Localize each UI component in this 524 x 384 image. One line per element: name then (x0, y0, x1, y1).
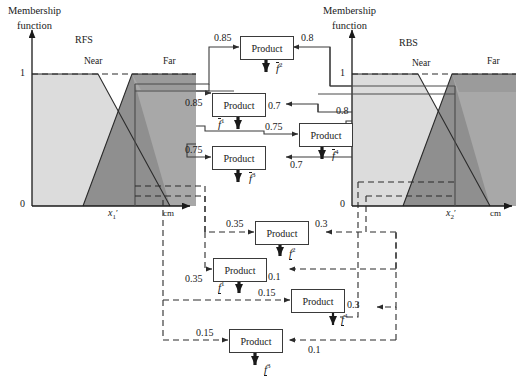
product-box-lower-3[interactable]: Product (291, 289, 345, 313)
rfs-axis-title-line1: Membership (8, 6, 61, 17)
output-u4-superscript: 3 (252, 171, 256, 179)
product-box-lower-2-label: Product (224, 265, 255, 276)
rfs-alpha-far (132, 74, 196, 90)
weight-l3-right: 0.3 (347, 300, 360, 310)
weight-u3-left: 0.75 (265, 122, 283, 132)
rbs-tick-one: 1 (340, 68, 345, 78)
weight-u2-right: 0.7 (268, 101, 281, 111)
output-u1: f2 (276, 62, 283, 75)
weight-u4-left: 0.75 (185, 145, 203, 155)
weight-u2-left: 0.85 (185, 98, 203, 108)
product-box-lower-4-label: Product (240, 336, 271, 347)
weight-l2-left: 0.35 (185, 274, 203, 284)
output-l4: f3 (264, 363, 271, 376)
rbs-x-input-label: x2′ (446, 208, 456, 221)
rbs-axis-title-line1: Membership (323, 6, 376, 17)
weight-l3-left: 0.15 (258, 288, 276, 298)
product-box-upper-3-label: Product (310, 130, 341, 141)
output-u2: f1 (218, 118, 225, 131)
output-l1-superscript: 2 (292, 246, 296, 254)
rbs-x-prime: ′ (454, 208, 456, 218)
output-l3: f4 (341, 313, 348, 326)
rbs-tick-zero: 0 (340, 199, 345, 209)
product-box-upper-4-label: Product (223, 153, 254, 164)
rfs-tick-zero: 0 (20, 199, 25, 209)
product-box-upper-1-label: Product (251, 43, 282, 54)
rfs-set-label-far: Far (163, 57, 176, 67)
rfs-x-input-label: x1′ (108, 208, 118, 221)
product-box-upper-3[interactable]: Product (299, 123, 353, 147)
weight-u1-right: 0.8 (301, 33, 314, 43)
wire-035-to-l2 (205, 232, 212, 269)
output-l4-superscript: 3 (267, 362, 271, 370)
wire-085-to-u1 (196, 47, 239, 84)
product-box-lower-2[interactable]: Product (213, 258, 267, 282)
output-u2-superscript: 1 (221, 117, 225, 125)
product-box-upper-2-label: Product (223, 100, 254, 111)
output-l2-superscript: 1 (221, 280, 225, 288)
weight-u4-right: 0.7 (290, 160, 303, 170)
output-u3: f4 (332, 149, 339, 162)
rfs-axis-title-line2: function (17, 21, 52, 32)
weight-l1-right: 0.3 (315, 219, 328, 229)
weight-l2-right: 0.1 (268, 272, 281, 282)
output-u3-superscript: 4 (335, 148, 339, 156)
product-box-upper-2[interactable]: Product (212, 93, 266, 117)
wire-075-to-u3 (196, 126, 298, 134)
weight-l1-left: 0.35 (226, 219, 244, 229)
rbs-axis-title-line2: function (332, 21, 367, 32)
rfs-set-label-near: Near (84, 57, 102, 67)
rfs-unit-label: cm (163, 209, 174, 218)
weight-l4-left: 0.15 (196, 328, 214, 338)
wire-085-to-u2 (206, 84, 211, 93)
product-box-lower-3-label: Product (302, 296, 333, 307)
output-l2: f1 (218, 281, 225, 294)
weight-l4-right: 0.1 (308, 345, 321, 355)
rfs-tick-one: 1 (20, 68, 25, 78)
rfs-x-prime: ′ (116, 208, 118, 218)
rbs-set-label-near: Near (412, 59, 430, 69)
rbs-alpha-far (452, 74, 516, 92)
output-l3-superscript: 4 (344, 312, 348, 320)
plot-title-rbs: RBS (399, 38, 418, 48)
plot-title-rfs: RFS (75, 35, 93, 45)
output-u4: f3 (249, 172, 256, 185)
product-box-lower-4[interactable]: Product (229, 329, 283, 353)
product-box-lower-1[interactable]: Product (255, 221, 309, 245)
rbs-set-label-far: Far (487, 57, 500, 67)
output-l1: f2 (289, 247, 296, 260)
rbs-unit-label: cm (490, 209, 501, 218)
output-u1-superscript: 2 (279, 61, 283, 69)
weight-u3-right: 0.8 (336, 106, 349, 116)
plot-rfs (32, 30, 234, 206)
product-box-upper-4[interactable]: Product (212, 146, 266, 170)
product-box-upper-1[interactable]: Product (240, 36, 294, 60)
weight-u1-left: 0.85 (214, 33, 232, 43)
product-box-lower-1-label: Product (266, 228, 297, 239)
